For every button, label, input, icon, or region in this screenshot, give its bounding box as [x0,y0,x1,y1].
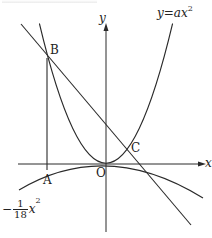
parabola-figure: y x O B A C y=ax2 −118x2 [0,0,212,238]
eq-neg-sign: − [2,202,12,216]
eq-coef: a [174,6,181,20]
x-axis-label: x [205,157,212,169]
point-a-label: A [43,174,52,186]
y-axis-label: y [99,12,106,24]
lower-parabola-label: −118x2 [2,199,41,220]
point-c-label: C [131,142,140,154]
upper-parabola-label: y=ax2 [157,7,193,19]
eq-var: x [181,6,188,20]
eq-var: x [29,202,36,216]
point-b-label: B [50,44,59,56]
origin-label: O [96,167,106,179]
fraction: 118 [13,199,28,220]
eq-exp: 2 [188,4,193,13]
eq-lhs: y [157,6,164,20]
eq-sign: = [164,6,174,20]
eq-exp: 2 [36,196,41,205]
fraction-denominator: 18 [13,210,28,220]
